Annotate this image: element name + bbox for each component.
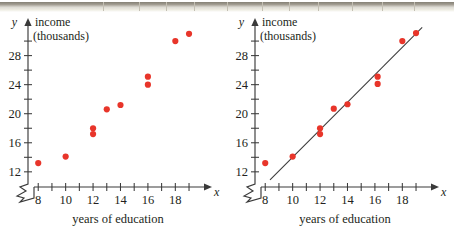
data-point [413,30,419,36]
data-point [145,74,151,80]
data-point [104,106,110,112]
y-tick-label: 16 [9,136,22,150]
y-tick-label: 12 [9,165,22,179]
data-point [375,74,381,80]
data-point [117,102,123,108]
y-axis-subtitle: (thousands) [33,29,89,43]
x-tick-label: 14 [341,193,354,207]
x-tick-label: 18 [169,193,182,207]
data-point [317,125,323,131]
y-tick-label: 28 [236,49,249,63]
x-axis-symbol: x [440,185,447,199]
y-tick-label: 20 [236,107,249,121]
data-point [186,31,192,37]
x-tick-label: 10 [286,193,299,207]
x-tick-label: 12 [314,193,327,207]
data-point [90,131,96,137]
data-point [399,38,405,44]
x-axis-arrow [204,183,212,190]
data-point [63,153,69,159]
x-tick-label: 8 [262,193,268,207]
data-point [317,131,323,137]
data-point [90,125,96,131]
x-tick-label: 10 [59,193,72,207]
x-tick-label: 8 [35,193,41,207]
x-tick-label: 12 [87,193,100,207]
y-axis-symbol: y [238,15,245,29]
y-axis-arrow [251,18,258,26]
data-point [290,153,296,159]
x-tick-label: 18 [396,193,409,207]
x-tick-label: 16 [369,193,382,207]
x-tick-label: 14 [114,193,127,207]
x-tick-label: 16 [142,193,155,207]
data-point [35,160,41,166]
panel-right-scatter-regression: 121620242881012141618yxincome(thousands)… [227,10,454,234]
axis-break-zigzag [244,179,261,202]
x-axis-arrow [431,183,439,190]
y-axis-symbol: y [11,15,18,29]
y-tick-label: 16 [236,136,249,150]
x-axis-symbol: x [213,185,220,199]
y-axis-title: income [35,15,70,29]
data-point [331,106,337,112]
y-tick-label: 24 [9,78,22,92]
axis-break-zigzag [17,179,34,202]
x-axis-title: years of education [299,212,391,226]
y-tick-label: 20 [9,107,22,121]
panel-left-scatter: 121620242881012141618yxincome(thousands)… [0,10,227,234]
data-point [145,82,151,88]
data-point [375,81,381,87]
data-point [172,38,178,44]
y-tick-label: 28 [9,49,22,63]
x-axis-title: years of education [72,212,164,226]
data-point [344,101,350,107]
y-axis-arrow [24,18,31,26]
y-axis-title: income [262,15,297,29]
y-tick-label: 24 [236,78,249,92]
data-point [262,160,268,166]
y-tick-label: 12 [236,165,249,179]
y-axis-subtitle: (thousands) [260,29,316,43]
